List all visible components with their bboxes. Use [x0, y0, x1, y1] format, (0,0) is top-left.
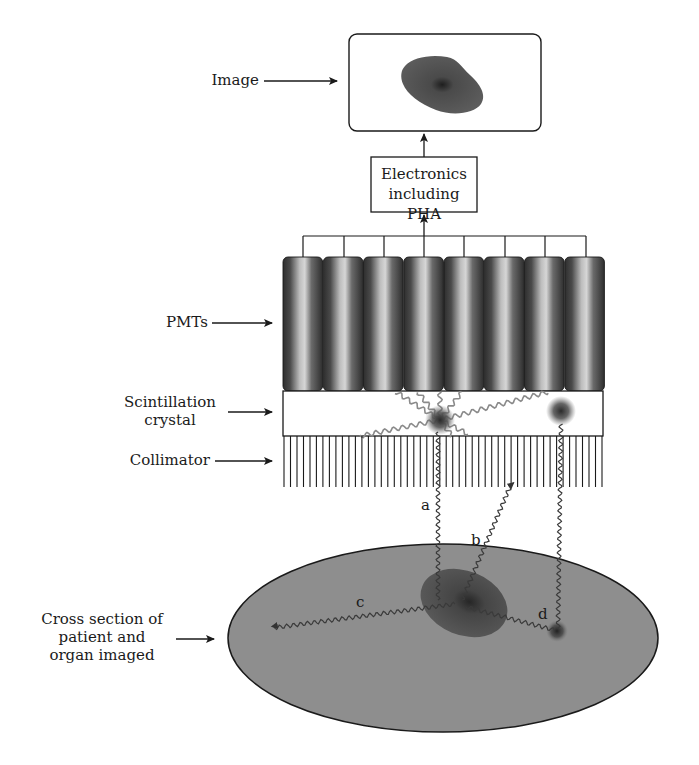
scintillation-event-a — [425, 405, 455, 435]
pmt-tube — [283, 257, 323, 391]
pmt-array — [283, 257, 604, 391]
pmt-tube — [404, 257, 444, 391]
collimator — [284, 436, 602, 487]
electronics-line-1: Electronics — [371, 164, 477, 184]
image-display-box — [349, 34, 541, 131]
image-label: Image — [193, 71, 259, 89]
pmts-label: PMTs — [120, 313, 208, 331]
patient-label: Cross section of patient and organ image… — [28, 610, 176, 664]
pmt-tube — [444, 257, 484, 391]
crystal-label-line-2: crystal — [110, 411, 230, 429]
crystal-label-line-1: Scintillation — [110, 393, 230, 411]
patient-label-line-1: Cross section of — [28, 610, 176, 628]
crystal-label: Scintillation crystal — [110, 393, 230, 429]
electronics-box-text: Electronics including PHA — [371, 164, 477, 224]
pmt-tube — [525, 257, 565, 391]
ray-label-d: d — [538, 606, 548, 622]
ray-label-a: a — [421, 497, 430, 513]
patient-label-line-3: organ imaged — [28, 646, 176, 664]
patient-label-line-2: patient and — [28, 628, 176, 646]
pmt-tube — [364, 257, 404, 391]
pmt-tube — [565, 257, 605, 391]
scintillation-event-d — [546, 396, 576, 426]
ray-label-c: c — [356, 594, 364, 610]
collimator-label: Collimator — [100, 451, 210, 469]
pmt-wiring — [303, 236, 586, 258]
ray-label-b: b — [471, 532, 481, 548]
pmt-tube — [484, 257, 524, 391]
pmt-tube — [323, 257, 363, 391]
electronics-line-2: including PHA — [371, 184, 477, 224]
